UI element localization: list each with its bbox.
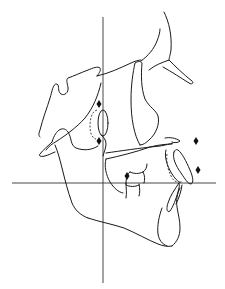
upper-incisor bbox=[173, 150, 192, 184]
landmark-marker-condyle-upper bbox=[97, 100, 102, 108]
orbit-curve bbox=[141, 29, 160, 61]
posterior-cranial-line bbox=[46, 83, 101, 150]
mandibular-lower-border bbox=[88, 218, 172, 246]
frontal-curve bbox=[164, 12, 171, 60]
lower-incisor bbox=[167, 183, 179, 212]
cranial-base-outline bbox=[39, 67, 101, 137]
tracing-drawing bbox=[0, 0, 225, 289]
condyle-neck bbox=[101, 135, 106, 156]
lower-first-molar bbox=[126, 183, 140, 198]
maxilla-posterior-curve bbox=[105, 159, 123, 193]
symphysis-inner bbox=[158, 208, 167, 246]
landmark-marker-upper-incisor bbox=[194, 137, 199, 145]
landmark-marker-condyle-lower bbox=[97, 137, 102, 145]
nasal-bone bbox=[149, 60, 193, 84]
posterior-ramus-border bbox=[55, 145, 88, 218]
anterior-nasal-spine bbox=[165, 138, 180, 143]
upper-molar-root bbox=[143, 164, 147, 172]
ramus-outline bbox=[39, 129, 98, 157]
articular-fossa-outline bbox=[90, 110, 97, 139]
landmark-marker-lower-lip bbox=[196, 166, 201, 174]
pterygomaxillary-fissure bbox=[131, 62, 159, 146]
upper-first-molar bbox=[126, 172, 145, 184]
cephalometric-figure: cephalometric tracing bbox=[0, 0, 225, 289]
